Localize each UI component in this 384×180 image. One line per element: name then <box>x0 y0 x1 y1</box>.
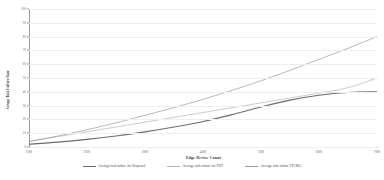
legend-entry[interactable]: Average task failure FTCMA <box>245 164 301 168</box>
legend-line-swatch <box>245 166 258 167</box>
chart-screenshot: Avrage Task Failure Rate 010203040506070… <box>0 0 384 180</box>
y-tick-label: 50 <box>23 76 26 80</box>
y-tick-mark <box>27 9 29 10</box>
y-tick-label: 30 <box>23 104 26 108</box>
y-tick-mark <box>27 78 29 79</box>
x-axis-title: Edge Device Count <box>29 155 378 160</box>
gridline <box>29 119 377 120</box>
y-tick-label: 60 <box>23 62 26 66</box>
legend-entry[interactable]: Average task failure for Proposed <box>83 164 145 168</box>
gridline <box>29 78 377 79</box>
y-tick-label: 80 <box>23 35 26 39</box>
x-tick-label: 7000 <box>374 150 380 154</box>
x-tick-label: 5000 <box>258 150 264 154</box>
gridline <box>29 133 377 134</box>
y-tick-label: 100 <box>21 7 26 11</box>
y-tick-mark <box>27 50 29 51</box>
y-tick-mark <box>27 147 29 148</box>
chart-legend: Average task failure for ProposedAverage… <box>0 164 384 168</box>
legend-label: Average task failure FTCMA <box>261 164 302 168</box>
series-line <box>29 37 377 142</box>
legend-line-swatch <box>83 166 96 167</box>
gridline <box>29 23 377 24</box>
y-tick-mark <box>27 119 29 120</box>
legend-entry[interactable]: Average task failure for FDT <box>167 164 223 168</box>
y-axis-title: Avrage Task Failure Rate <box>6 70 10 109</box>
y-tick-mark <box>27 36 29 37</box>
gridline <box>29 64 377 65</box>
gridline <box>29 37 377 38</box>
gridline <box>29 106 377 107</box>
y-tick-label: 90 <box>23 21 26 25</box>
legend-label: Average task failure for Proposed <box>98 164 145 168</box>
gridline <box>29 9 377 10</box>
legend-label: Average task failure for FDT <box>183 164 223 168</box>
y-tick-label: 0 <box>24 145 26 149</box>
y-tick-mark <box>27 91 29 92</box>
gridline <box>29 50 377 51</box>
y-tick-label: 70 <box>23 48 26 52</box>
y-tick-mark <box>27 64 29 65</box>
y-tick-label: 40 <box>23 90 26 94</box>
gridline <box>29 147 377 148</box>
y-tick-label: 20 <box>23 117 26 121</box>
x-tick-label: 1000 <box>26 150 32 154</box>
y-tick-mark <box>27 22 29 23</box>
legend-line-swatch <box>167 166 180 167</box>
x-tick-label: 3000 <box>142 150 148 154</box>
x-tick-label: 6000 <box>316 150 322 154</box>
y-tick-label: 10 <box>23 131 26 135</box>
series-line <box>29 78 377 141</box>
plot-area: 0102030405060708090100 10002000300040005… <box>29 9 377 147</box>
y-tick-mark <box>27 133 29 134</box>
y-tick-mark <box>27 105 29 106</box>
gridline <box>29 92 377 93</box>
x-tick-label: 4000 <box>200 150 206 154</box>
x-tick-label: 2000 <box>84 150 90 154</box>
